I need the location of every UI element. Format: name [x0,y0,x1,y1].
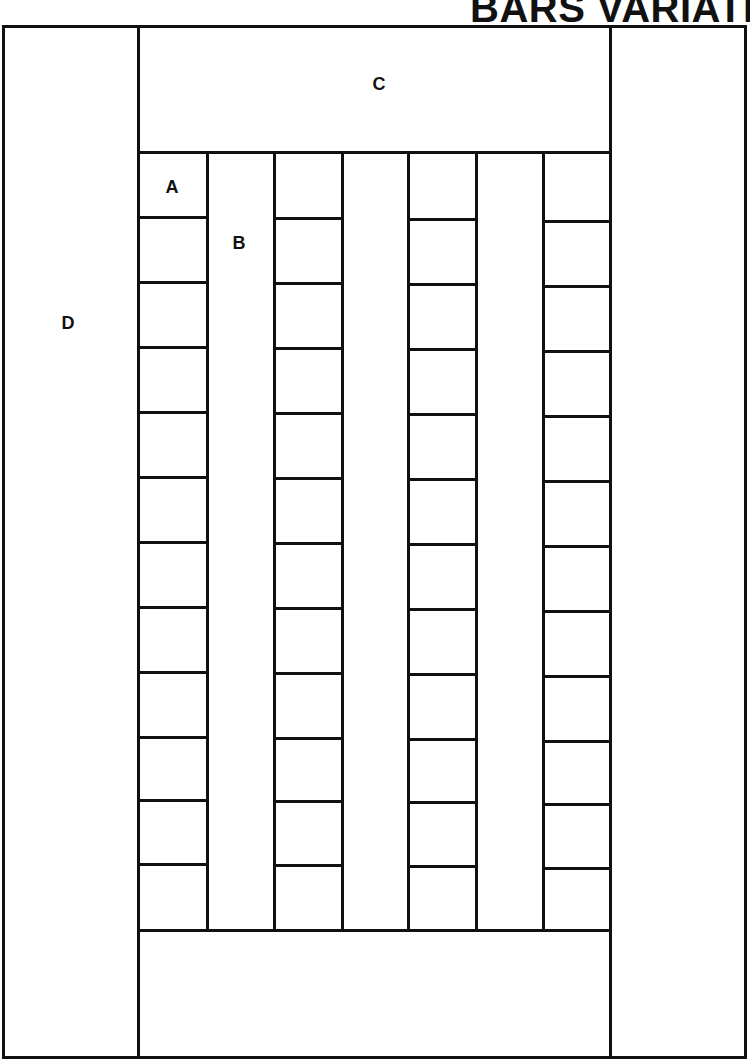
brick-row-line [138,606,209,609]
column-divider [542,152,545,932]
label-a: A [166,177,179,198]
zone-d [2,25,138,1059]
brick-row-line [274,542,344,545]
brick-row-line [274,607,344,610]
brick-row-line [408,218,478,221]
brick-row-line [408,608,478,611]
brick-row-line [543,610,612,613]
brick-row-line [138,281,209,284]
brick-row-line [408,801,478,804]
brick-row-line [543,415,612,418]
zone-right-border [609,25,612,1059]
column-divider [475,152,478,932]
brick-row-line [138,411,209,414]
brick-row-line [274,864,344,867]
brick-row-line [274,800,344,803]
label-d: D [62,313,75,334]
brick-row-line [543,480,612,483]
brick-row-line [274,347,344,350]
brick-row-line [543,675,612,678]
brick-row-line [138,541,209,544]
brick-row-line [138,671,209,674]
brick-row-line [543,740,612,743]
brick-row-line [543,220,612,223]
brick-row-line [408,543,478,546]
brick-row-line [408,865,478,868]
zone-bottom [138,930,610,1059]
brick-row-line [138,216,209,219]
brick-row-line [274,737,344,740]
brick-row-line [408,478,478,481]
column-divider [407,152,410,932]
brick-row-line [138,736,209,739]
brick-row-line [543,285,612,288]
brick-row-line [274,672,344,675]
label-b: B [233,233,246,254]
brick-row-line [274,412,344,415]
zone-c-bottom-border [138,151,612,154]
brick-row-line [274,282,344,285]
brick-row-line [138,799,209,802]
brick-row-line [408,738,478,741]
brick-row-line [408,413,478,416]
brick-row-line [543,867,612,870]
brick-row-line [408,348,478,351]
label-c: C [373,74,386,95]
brick-row-line [543,350,612,353]
brick-row-line [543,803,612,806]
brick-row-line [138,476,209,479]
brick-row-line [408,283,478,286]
brick-row-line [138,346,209,349]
brick-row-line [543,545,612,548]
zone-right [610,25,747,1059]
zone-bottom-top-border [138,929,612,932]
brick-row-line [138,863,209,866]
brick-row-line [408,673,478,676]
brick-row-line [274,477,344,480]
brick-row-line [274,217,344,220]
